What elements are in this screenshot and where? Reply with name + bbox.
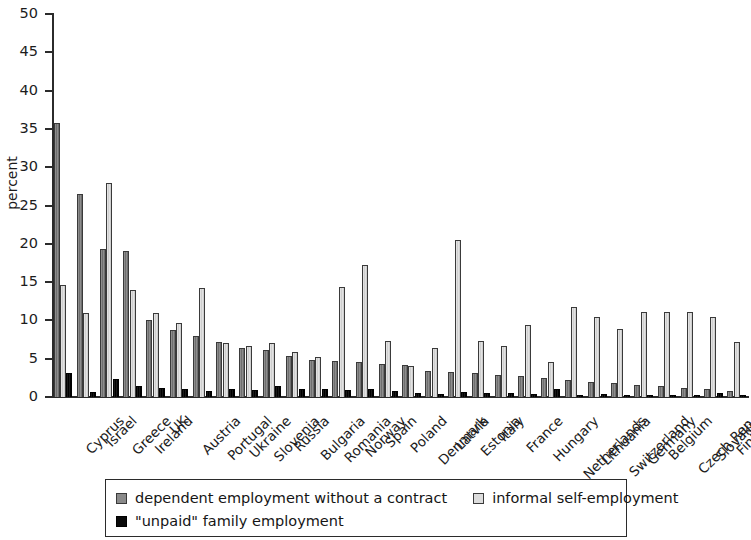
y-tick-mark xyxy=(45,166,52,168)
bar xyxy=(182,389,188,397)
bar xyxy=(146,320,152,397)
bar xyxy=(681,388,687,397)
bar-group xyxy=(216,14,239,397)
bar xyxy=(90,392,96,397)
bar xyxy=(77,194,83,397)
bar xyxy=(432,348,438,397)
bar xyxy=(322,389,328,397)
y-tick-label: 25 xyxy=(0,198,38,213)
bar xyxy=(664,312,670,397)
bar-group xyxy=(541,14,564,397)
bar-group xyxy=(425,14,448,397)
bar xyxy=(309,360,315,397)
bar xyxy=(710,317,716,397)
bar xyxy=(106,183,112,397)
bar xyxy=(199,288,205,397)
bar xyxy=(216,342,222,397)
bar-group xyxy=(379,14,402,397)
bar xyxy=(136,386,142,397)
bar xyxy=(362,265,368,397)
bar xyxy=(170,330,176,397)
bar-group xyxy=(402,14,425,397)
bar-group xyxy=(658,14,681,397)
bar xyxy=(508,393,514,397)
bar xyxy=(153,313,159,397)
y-axis-label: percent xyxy=(4,138,20,228)
bar xyxy=(525,325,531,397)
bar xyxy=(687,312,693,397)
plot-area: 05101520253035404550 CyprusIsraelGreeceI… xyxy=(52,14,749,397)
bar xyxy=(332,361,338,397)
bar-group xyxy=(727,14,750,397)
bar xyxy=(123,251,129,397)
bar xyxy=(315,357,321,397)
bar xyxy=(531,394,537,397)
bar-group xyxy=(193,14,216,397)
bar-group xyxy=(611,14,634,397)
bar-group xyxy=(123,14,146,397)
bar xyxy=(641,312,647,397)
bar xyxy=(402,365,408,397)
x-tick-label: Italy xyxy=(496,414,526,444)
bar xyxy=(478,341,484,397)
bar xyxy=(223,343,229,397)
legend-label-informal: informal self-employment xyxy=(492,491,678,506)
bar xyxy=(704,389,710,397)
bar xyxy=(594,317,600,397)
bar xyxy=(634,385,640,397)
bar xyxy=(356,362,362,397)
legend-swatch-icon-dependent xyxy=(116,493,127,504)
y-tick-label: 10 xyxy=(0,312,38,327)
y-tick-mark xyxy=(45,281,52,283)
y-tick-label: 0 xyxy=(0,389,38,404)
bar-group xyxy=(495,14,518,397)
legend-label-dependent: dependent employment without a contract xyxy=(135,491,447,506)
bar xyxy=(206,391,212,397)
legend-swatch-icon-unpaid xyxy=(116,516,127,527)
bar xyxy=(339,287,345,397)
bar xyxy=(541,378,547,397)
bar-group xyxy=(239,14,262,397)
bar-group xyxy=(146,14,169,397)
bar xyxy=(425,371,431,397)
bar-group xyxy=(309,14,332,397)
bar xyxy=(548,362,554,397)
bar-group xyxy=(704,14,727,397)
y-tick-label: 20 xyxy=(0,236,38,251)
bar xyxy=(415,393,421,397)
bar xyxy=(495,375,501,397)
bar xyxy=(392,391,398,397)
bar xyxy=(159,388,165,397)
bar xyxy=(408,366,414,397)
bar xyxy=(617,329,623,397)
bar xyxy=(717,393,723,397)
bar xyxy=(385,341,391,397)
bar xyxy=(368,389,374,397)
y-tick-mark xyxy=(45,243,52,245)
bar xyxy=(83,313,89,397)
legend-swatch-icon-informal xyxy=(473,493,484,504)
bar xyxy=(379,364,385,397)
bar xyxy=(193,336,199,397)
bar xyxy=(176,323,182,397)
bar xyxy=(263,350,269,397)
bar xyxy=(275,386,281,397)
y-tick-label: 15 xyxy=(0,274,38,289)
bar xyxy=(601,394,607,397)
bar-group xyxy=(263,14,286,397)
y-tick-mark xyxy=(45,13,52,15)
bar xyxy=(66,373,72,398)
bar xyxy=(484,393,490,397)
y-tick-mark xyxy=(45,358,52,360)
bar-group xyxy=(565,14,588,397)
bar-group xyxy=(286,14,309,397)
bar-group xyxy=(681,14,704,397)
y-tick-label: 35 xyxy=(0,121,38,136)
bar-group xyxy=(100,14,123,397)
bar xyxy=(54,123,60,397)
bar xyxy=(588,382,594,397)
bar xyxy=(229,389,235,397)
bar xyxy=(518,376,524,397)
chart-legend: dependent employment without a contract … xyxy=(105,479,627,537)
bar xyxy=(239,348,245,397)
